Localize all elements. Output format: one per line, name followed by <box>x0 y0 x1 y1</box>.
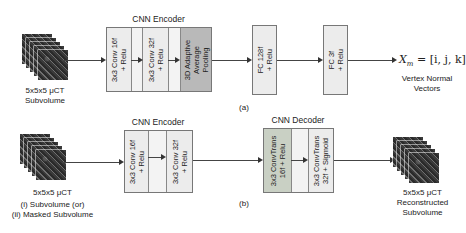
conv32-block-b: 3x3 Conv 32f+ Relu <box>167 131 192 192</box>
input-volume-image-a <box>22 34 67 79</box>
convtrans32-block: 3x3 ConvTrans32f + Sigmoid <box>309 129 333 192</box>
arrowhead-icon <box>392 57 397 63</box>
arrowhead-icon <box>175 57 180 63</box>
arrow-input-to-encoder-b <box>62 162 120 163</box>
cnn-encoder-b: 3x3 Conv 16f+ Relu 3x3 Conv 32f+ Relu <box>124 130 193 193</box>
arrow-fc2-to-output <box>348 60 393 61</box>
arrowhead-icon <box>138 57 143 63</box>
output-volume-image-b <box>393 137 438 182</box>
arrow-encoder-to-fc1 <box>212 60 248 61</box>
arrowhead-icon <box>161 154 166 160</box>
arrow-fc1-to-fc2 <box>277 60 319 61</box>
input-label-a: 5x5x5 μCT Subvolume <box>10 86 80 106</box>
arrow-decoder-to-output <box>334 160 391 161</box>
decoder-title: CNN Decoder <box>260 115 336 125</box>
caption-b: (b) <box>236 199 252 209</box>
caption-a: (a) <box>236 103 252 113</box>
cnn-encoder-a: 3x3 Conv 16f+ Relu 3x3 Conv 32f+ Relu 3D… <box>106 27 212 92</box>
output-label-a: Vertex Normal Vectors <box>392 74 462 94</box>
encoder-title-b: CNN Encoder <box>120 117 196 127</box>
arrow-encoder-to-decoder <box>193 160 259 161</box>
convtrans16-block: 3x3 ConvTrans16f + Relu <box>264 129 292 192</box>
input-volume-image-b <box>20 134 65 179</box>
conv16-block-b: 3x3 Conv 16f+ Relu <box>125 131 149 192</box>
output-formula: Xm = [i, j, k] <box>399 53 466 68</box>
fc3-block: FC 3f+ Relu <box>323 25 348 95</box>
conv32-block-a: 3x3 Conv 32f+ Relu <box>143 28 169 91</box>
arrow-input-to-encoder-a <box>62 60 102 61</box>
fc128-block: FC 128f+ Relu <box>252 25 277 95</box>
gap-block <box>149 131 167 192</box>
inner-arrow <box>148 157 162 158</box>
encoder-title-a: CNN Encoder <box>106 14 211 24</box>
adaptive-pooling-block-a: 3D AdaptiveAveragePooling <box>181 28 211 91</box>
arrowhead-icon <box>303 157 308 163</box>
conv16-block-a: 3x3 Conv 16f+ Relu <box>107 28 132 91</box>
output-label-b: 5x5x5 μCT Reconstructed Subvolume <box>385 188 460 218</box>
input-label-b: 5x5x5 μCT (i) Subvolume (or) (ii) Masked… <box>5 188 100 220</box>
